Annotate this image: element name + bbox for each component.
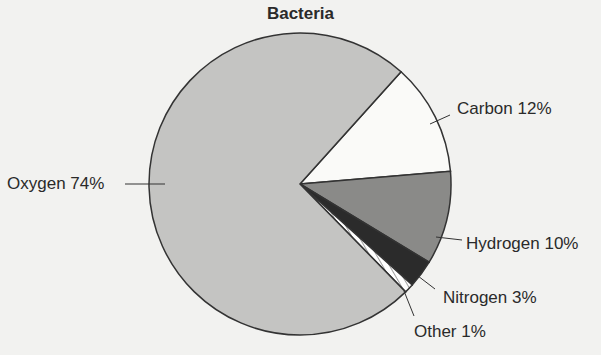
label-nitrogen: Nitrogen 3% <box>443 288 537 308</box>
leader-nitrogen <box>418 276 435 289</box>
label-hydrogen: Hydrogen 10% <box>466 234 578 254</box>
label-carbon: Carbon 12% <box>457 99 552 119</box>
pie-slices <box>149 33 451 335</box>
label-other: Other 1% <box>414 322 486 342</box>
leader-other <box>404 291 414 316</box>
label-oxygen: Oxygen 74% <box>7 174 104 194</box>
